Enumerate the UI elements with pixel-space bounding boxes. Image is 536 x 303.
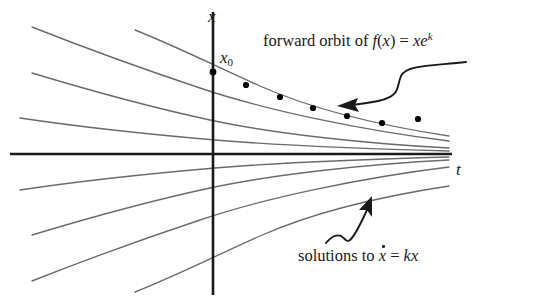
orbit-point-4 bbox=[344, 113, 350, 119]
forward-orbit-pointer-line bbox=[352, 62, 466, 105]
forward-orbit-prefix: forward orbit of bbox=[263, 31, 373, 50]
orbit-point-5 bbox=[379, 120, 385, 126]
forward-orbit-equals: = bbox=[395, 31, 413, 50]
forward-orbit-exponent: k bbox=[428, 30, 433, 42]
solutions-pointer-line bbox=[326, 210, 367, 243]
solutions-annotation: solutions to x = kx bbox=[298, 248, 418, 265]
forward-orbit-expression: xe bbox=[413, 31, 428, 50]
solutions-prefix: solutions to bbox=[298, 246, 379, 265]
figure-canvas: x t x0 forward orbit of f(x) = xek solut… bbox=[0, 0, 536, 303]
initial-point-variable: x bbox=[220, 48, 228, 67]
forward-orbit-annotation: forward orbit of f(x) = xek bbox=[263, 33, 433, 50]
axis-label-x: x bbox=[208, 8, 216, 25]
axis-label-t: t bbox=[456, 161, 461, 178]
initial-point-label: x0 bbox=[220, 49, 233, 66]
solution-curve-lower-1 bbox=[20, 157, 449, 190]
solution-curves-lower bbox=[20, 157, 449, 292]
orbit-point-3 bbox=[310, 105, 316, 111]
solutions-rhs: kx bbox=[404, 246, 419, 265]
solution-curve-lower-4 bbox=[135, 186, 449, 292]
solutions-pointer bbox=[326, 196, 372, 243]
solutions-dotted-variable: x bbox=[379, 248, 386, 265]
forward-orbit-pointer bbox=[337, 62, 466, 112]
orbit-point-0 bbox=[210, 69, 217, 76]
orbit-point-6 bbox=[415, 116, 421, 122]
forward-orbit-argument: x bbox=[383, 31, 390, 50]
initial-point-subscript: 0 bbox=[228, 56, 234, 68]
solution-curve-upper-3 bbox=[32, 73, 449, 148]
orbit-point-2 bbox=[277, 94, 283, 100]
orbit-point-1 bbox=[243, 82, 249, 88]
solutions-equals: = bbox=[386, 246, 404, 265]
